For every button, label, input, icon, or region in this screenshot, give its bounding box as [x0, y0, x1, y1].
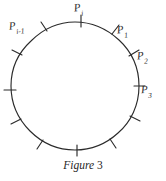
label-p-3: P3	[141, 84, 152, 98]
label-p-1: P1	[116, 23, 128, 38]
tick-mark	[11, 119, 21, 124]
label-p-i-minus-1-subscript: i-1	[16, 26, 25, 36]
label-p-2: P2	[136, 50, 148, 65]
label-p-i-minus-1-base: P	[8, 19, 16, 32]
figure-caption: Figure 3	[0, 160, 166, 172]
label-p-i: Pi	[73, 2, 83, 17]
tick-mark	[110, 139, 116, 148]
label-p-3-subscript: 3	[148, 91, 152, 100]
label-p-2-subscript: 2	[144, 57, 149, 66]
label-p-1-base: P	[116, 23, 124, 36]
caption-number: 3	[97, 159, 103, 171]
caption-word: Figure	[63, 159, 94, 171]
figure-container: Pi P1 P2 P3 Pi-1 Figure 3	[0, 0, 166, 181]
tick-mark	[130, 116, 140, 121]
tick-mark	[37, 140, 43, 149]
tick-mark	[41, 22, 47, 31]
label-p-3-base: P	[140, 83, 148, 95]
label-p-i-base: P	[73, 1, 81, 14]
circle-outline	[11, 22, 139, 150]
label-p-i-minus-1: Pi-1	[8, 19, 24, 34]
label-p-2-base: P	[136, 49, 144, 62]
